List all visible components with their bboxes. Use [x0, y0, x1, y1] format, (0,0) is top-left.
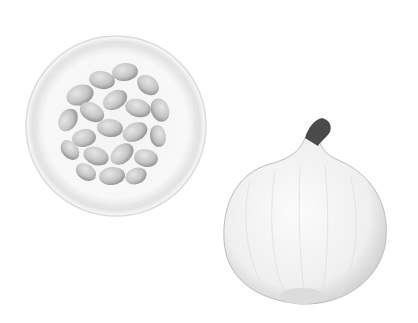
- bowl-of-beans: [26, 36, 206, 216]
- onion-half: [224, 118, 387, 304]
- photo-scene: [0, 0, 418, 323]
- food-illustration: [0, 0, 418, 323]
